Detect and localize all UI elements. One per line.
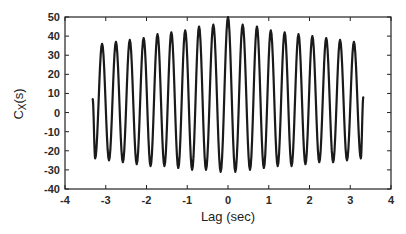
y-axis-label-suffix: (s) xyxy=(11,88,26,103)
svg-text:CX(s): CX(s) xyxy=(11,88,28,119)
y-tick-label: 50 xyxy=(48,11,60,23)
plot-frame xyxy=(65,17,391,189)
y-tick-label: -40 xyxy=(44,183,60,195)
data-line xyxy=(93,17,364,172)
y-tick-label: -30 xyxy=(44,164,60,176)
y-tick-label: 0 xyxy=(54,107,60,119)
x-tick-label: -1 xyxy=(182,194,192,206)
x-tick-label: 2 xyxy=(306,194,312,206)
y-tick-label: 30 xyxy=(48,49,60,61)
x-tick-label: 3 xyxy=(347,194,353,206)
y-axis-label-main: C xyxy=(11,110,26,119)
x-tick-label: 1 xyxy=(266,194,272,206)
y-tick-label: -10 xyxy=(44,126,60,138)
x-tick-label: -3 xyxy=(101,194,111,206)
y-axis-label: CX(s) xyxy=(11,88,28,119)
cross-correlation-chart: -40-30-20-1001020304050 -4-3-2-101234 La… xyxy=(0,0,406,234)
y-tick-label: 20 xyxy=(48,68,60,80)
y-tick-label: 40 xyxy=(48,30,60,42)
x-tick-label: -2 xyxy=(142,194,152,206)
x-tick-label: 0 xyxy=(225,194,231,206)
x-axis-label: Lag (sec) xyxy=(201,209,255,224)
y-tick-label: 10 xyxy=(48,87,60,99)
x-tick-label: -4 xyxy=(60,194,71,206)
x-tick-label: 4 xyxy=(388,194,395,206)
y-tick-label: -20 xyxy=(44,145,60,157)
